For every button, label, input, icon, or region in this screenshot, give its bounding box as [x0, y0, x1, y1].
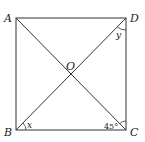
- point-label-b: B: [3, 126, 12, 139]
- point-label-c: C: [130, 126, 139, 139]
- angle-label-y: y: [115, 30, 122, 40]
- point-label-d: D: [129, 12, 139, 25]
- angle-arc-x: [23, 123, 26, 130]
- angle-label-45: 45°: [104, 122, 118, 131]
- square-diagram: A D B C O y x 45°: [0, 0, 145, 142]
- point-label-o: O: [66, 60, 75, 73]
- angle-label-x: x: [27, 120, 32, 130]
- angle-arc-45: [120, 121, 126, 124]
- point-label-a: A: [3, 12, 12, 25]
